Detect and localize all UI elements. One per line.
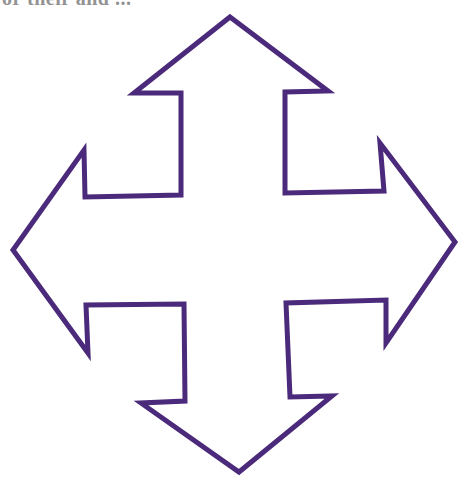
four-way-arrow-outline xyxy=(13,17,455,472)
four-way-arrow-icon xyxy=(0,0,464,479)
